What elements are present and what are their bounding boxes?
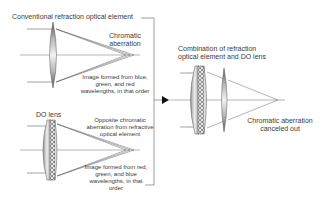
label-line: Chromatic aberration [235, 117, 325, 125]
diagram-canvas [0, 0, 325, 201]
caption-line: order [80, 185, 152, 192]
title-line: optical element and DO lens [178, 53, 266, 61]
combination-title: Combination of refraction optical elemen… [178, 45, 266, 61]
chromatic-aberration-label: Chromatic aberration [100, 32, 150, 48]
label-line: aberration [100, 40, 150, 48]
caption-line: wavelengths, in that order [75, 88, 155, 95]
opposite-aberration-label: Opposite chromatic aberration from refra… [80, 117, 160, 138]
combo-refraction-lens [222, 68, 228, 132]
combo-do-lens-body [191, 66, 200, 134]
conventional-element-title: Conventional refraction optical element [12, 13, 133, 21]
caption-line: green, and red [75, 81, 155, 88]
do-lens-diffractive-layer [50, 120, 55, 180]
bgr-image-caption: Image formed from blue, green, and red w… [75, 74, 155, 95]
caption-line: green, and blue [80, 171, 152, 178]
combo-do-layer [198, 66, 204, 134]
caption-line: Image formed from red, [80, 164, 152, 171]
label-line: optical element [80, 131, 160, 138]
caption-line: Image formed from blue, [75, 74, 155, 81]
label-line: Chromatic [100, 32, 150, 40]
aberration-canceled-label: Chromatic aberration canceled out [235, 117, 325, 133]
label-line: canceled out [235, 125, 325, 133]
rgb-image-caption: Image formed from red, green, and blue w… [80, 164, 152, 192]
label-line: Opposite chromatic [80, 117, 160, 124]
label-line: aberration from refractive [80, 124, 160, 131]
convex-lens [50, 22, 57, 88]
title-line: Combination of refraction [178, 45, 266, 53]
caption-line: wavelengths, in that [80, 178, 152, 185]
arrow-icon [162, 96, 169, 104]
do-lens-title: DO lens [36, 111, 61, 119]
